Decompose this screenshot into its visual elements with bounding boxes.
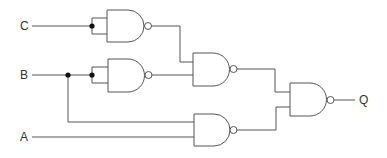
wire-input-c — [32, 18, 107, 34]
nand-gate-5 — [290, 83, 334, 116]
nand-gate-2 — [108, 59, 152, 92]
junction-dot-c — [89, 23, 94, 28]
input-label-b: B — [20, 69, 28, 81]
junction-dot-b — [89, 72, 94, 77]
wire-g3-to-g5 — [237, 69, 290, 92]
input-label-a: A — [20, 131, 28, 143]
nand-gate-4 — [194, 114, 237, 146]
wire-g4-to-g5 — [237, 107, 290, 130]
output-label-q: Q — [359, 94, 368, 106]
wire-g1-to-g3 — [152, 26, 194, 62]
nand-gate-1 — [107, 10, 152, 42]
nand-gate-3 — [193, 53, 237, 86]
logic-circuit-diagram — [0, 0, 387, 158]
junction-dot-b-branch — [65, 72, 70, 77]
input-label-c: C — [20, 20, 29, 32]
